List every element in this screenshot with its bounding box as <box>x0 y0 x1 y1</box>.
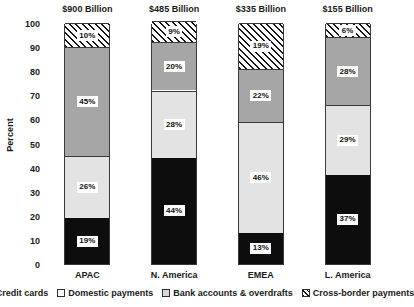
legend-item-bank[interactable]: Bank accounts & overdrafts <box>162 288 293 298</box>
y-axis-tick-labels: 1009080706050403020100 <box>14 24 40 265</box>
plot-area: $900 Billion19%26%45%10%APAC$485 Billion… <box>44 24 391 265</box>
x-axis-category-label: N. America <box>151 270 198 280</box>
bar-group-total-label: $335 Billion <box>236 4 286 14</box>
stacked-bar[interactable]: 37%29%28%6% <box>325 24 371 265</box>
y-axis-tick-90: 90 <box>14 44 40 53</box>
bar-group-n-america: $485 Billion44%28%20%9%N. America <box>131 24 218 265</box>
bar-segment-value-label: 45% <box>77 96 98 107</box>
bar-group-total-label: $485 Billion <box>149 4 199 14</box>
stacked-bar[interactable]: 13%46%22%19% <box>238 24 284 265</box>
legend-label: Bank accounts & overdrafts <box>173 288 293 298</box>
y-axis-tick-40: 40 <box>14 164 40 173</box>
bar-segment-domestic-payments[interactable]: 46% <box>239 122 283 233</box>
bar-segment-value-label: 13% <box>250 243 271 254</box>
bar-segment-value-label: 44% <box>164 205 185 216</box>
bar-group-total-label: $155 Billion <box>323 4 373 14</box>
bar-segment-credit-cards[interactable]: 44% <box>152 158 196 264</box>
bar-group-l-america: $155 Billion37%29%28%6%L. America <box>304 24 391 265</box>
legend-label: Domestic payments <box>68 288 153 298</box>
legend-item-cross[interactable]: Cross-border payments <box>302 288 414 298</box>
chart-legend: Credit cardsDomestic paymentsBank accoun… <box>0 288 399 298</box>
x-axis-category-label: EMEA <box>248 270 274 280</box>
bar-segment-credit-cards[interactable]: 37% <box>326 175 370 264</box>
bar-segment-value-label: 29% <box>337 135 358 146</box>
y-axis-tick-50: 50 <box>14 140 40 149</box>
bar-segment-value-label: 19% <box>77 236 98 247</box>
x-axis-category-label: APAC <box>75 270 100 280</box>
bar-segment-domestic-payments[interactable]: 29% <box>326 105 370 175</box>
y-axis-tick-70: 70 <box>14 92 40 101</box>
bar-segment-value-label: 37% <box>337 214 358 225</box>
bar-segment-cross-border-payments[interactable]: 6% <box>326 23 370 37</box>
legend-swatch-icon <box>302 289 310 297</box>
stacked-bar[interactable]: 44%28%20%9% <box>151 24 197 265</box>
y-axis-tick-10: 10 <box>14 236 40 245</box>
legend-label: Cross-border payments <box>313 288 414 298</box>
bar-segment-bank-accounts-overdrafts[interactable]: 28% <box>326 37 370 104</box>
y-axis-tick-20: 20 <box>14 212 40 221</box>
bar-segment-value-label: 6% <box>339 25 356 36</box>
y-axis-tick-30: 30 <box>14 188 40 197</box>
legend-item-credit[interactable]: Credit cards <box>0 288 48 298</box>
bar-group-emea: $335 Billion13%46%22%19%EMEA <box>218 24 305 265</box>
legend-item-dom[interactable]: Domestic payments <box>57 288 153 298</box>
stacked-bar[interactable]: 19%26%45%10% <box>64 24 110 265</box>
bar-segment-value-label: 46% <box>250 172 271 183</box>
bar-segment-value-label: 28% <box>164 119 185 130</box>
y-axis-tick-0: 0 <box>14 261 40 270</box>
bar-segment-cross-border-payments[interactable]: 10% <box>65 23 109 47</box>
bar-segment-credit-cards[interactable]: 13% <box>239 233 283 264</box>
bar-segment-credit-cards[interactable]: 19% <box>65 218 109 264</box>
bar-segment-value-label: 9% <box>166 26 183 37</box>
bar-segment-value-label: 26% <box>77 182 98 193</box>
legend-swatch-icon <box>57 289 65 297</box>
bar-segment-bank-accounts-overdrafts[interactable]: 20% <box>152 42 196 90</box>
x-axis-category-label: L. America <box>325 270 371 280</box>
bar-segment-value-label: 19% <box>250 41 271 52</box>
bar-segment-cross-border-payments[interactable]: 9% <box>152 21 196 43</box>
bar-segment-value-label: 10% <box>77 30 98 41</box>
bar-segment-bank-accounts-overdrafts[interactable]: 22% <box>239 69 283 122</box>
bar-segment-domestic-payments[interactable]: 26% <box>65 156 109 219</box>
bar-segment-value-label: 22% <box>250 90 271 101</box>
bar-segment-bank-accounts-overdrafts[interactable]: 45% <box>65 47 109 155</box>
bar-group-apac: $900 Billion19%26%45%10%APAC <box>44 24 131 265</box>
y-axis-tick-80: 80 <box>14 68 40 77</box>
bar-segment-cross-border-payments[interactable]: 19% <box>239 23 283 69</box>
legend-swatch-icon <box>162 289 170 297</box>
bar-segment-domestic-payments[interactable]: 28% <box>152 91 196 158</box>
bar-group-total-label: $900 Billion <box>62 4 112 14</box>
legend-label: Credit cards <box>0 288 48 298</box>
bar-segment-value-label: 28% <box>337 66 358 77</box>
y-axis-tick-60: 60 <box>14 116 40 125</box>
bar-segment-value-label: 20% <box>164 61 185 72</box>
y-axis-tick-100: 100 <box>14 20 40 29</box>
